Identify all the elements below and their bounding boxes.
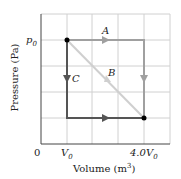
point-final [142, 116, 147, 121]
p0-tick: p0 [26, 34, 37, 48]
path-c-label: C [72, 73, 80, 84]
path-a-arrow-icon [102, 36, 110, 44]
path-c-arrow-icon [63, 75, 71, 83]
y-axis-label: Pressure (Pa) [9, 43, 20, 111]
point-initial [65, 38, 70, 43]
pv-diagram: Pressure (Pa) p0 0 V0 4.0V0 Volume (m3) … [0, 0, 181, 179]
v0-tick: V0 [61, 147, 73, 161]
path-a-arrow-icon-2 [140, 75, 148, 83]
path-b-label: B [108, 67, 115, 78]
origin-tick: 0 [34, 147, 40, 158]
x-axis-label: Volume (m3) [73, 162, 135, 174]
v4-tick: 4.0V0 [130, 147, 158, 161]
path-a-label: A [102, 25, 109, 36]
path-c-arrow-icon-2 [102, 114, 110, 122]
